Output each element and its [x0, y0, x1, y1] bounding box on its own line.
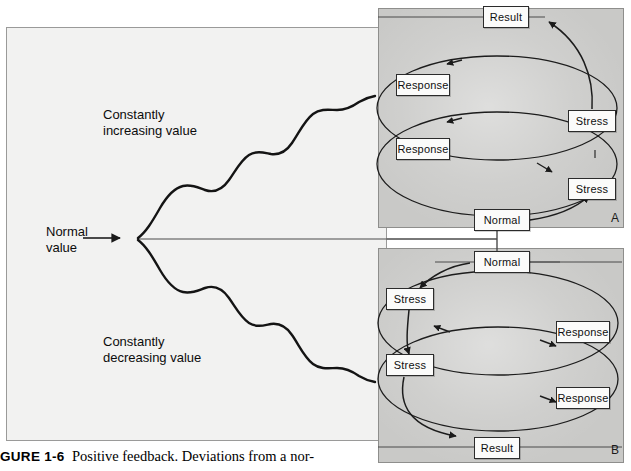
node-b-response-2[interactable]: Response	[556, 387, 610, 409]
node-a-normal[interactable]: Normal	[474, 209, 530, 231]
node-b-stress-1[interactable]: Stress	[386, 288, 434, 310]
node-a-result[interactable]: Result	[483, 6, 529, 28]
constantly-increasing-value-label: Constantly increasing value	[103, 107, 197, 140]
node-b-normal[interactable]: Normal	[474, 251, 530, 273]
node-a-stress-2[interactable]: Stress	[568, 178, 616, 200]
constantly-decreasing-value-label: Constantly decreasing value	[103, 334, 201, 367]
node-a-stress-1[interactable]: Stress	[568, 110, 616, 132]
caption-text: Positive feedback. Deviations from a nor…	[65, 448, 314, 464]
normal-value-label: Normal value	[46, 224, 88, 257]
node-a-response-2[interactable]: Response	[396, 138, 450, 160]
figure-caption: GURE 1-6 Positive feedback. Deviations f…	[0, 448, 631, 465]
node-b-stress-2[interactable]: Stress	[386, 354, 434, 376]
figure-positive-feedback: Normal value Constantly increasing value…	[0, 0, 631, 471]
node-b-response-1[interactable]: Response	[556, 321, 610, 343]
node-a-response-1[interactable]: Response	[396, 74, 450, 96]
panel-a-letter: A	[611, 211, 619, 225]
caption-figure-number: GURE 1-6	[0, 449, 65, 464]
